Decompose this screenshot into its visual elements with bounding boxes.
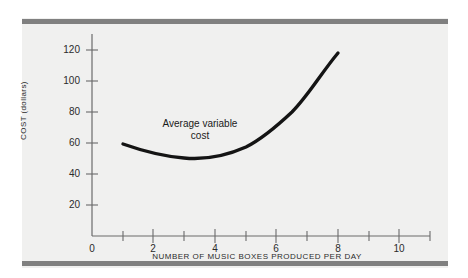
x-axis-title: NUMBER OF MUSIC BOXES PRODUCED PER DAY <box>92 252 422 261</box>
y-tick-label-60: 60 <box>50 137 80 148</box>
y-tick-label-40: 40 <box>50 168 80 179</box>
y-tick-label-120: 120 <box>50 44 80 55</box>
y-tick-label-100: 100 <box>50 75 80 86</box>
y-tick-label-20: 20 <box>50 199 80 210</box>
curve-annotation-line-1: Average variable <box>140 118 260 130</box>
y-axis-title: COST (dollars) <box>19 66 28 156</box>
average-variable-cost-curve <box>123 53 338 158</box>
curve-annotation-line-2: cost <box>140 130 260 142</box>
curve-annotation: Average variable cost <box>140 118 260 142</box>
chart-figure: 20 40 60 80 100 120 0 2 4 6 8 10 COST (d… <box>0 0 468 278</box>
y-tick-label-80: 80 <box>50 106 80 117</box>
